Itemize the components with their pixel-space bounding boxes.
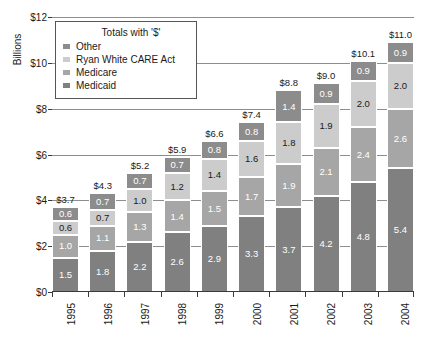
bar-segment[interactable]: 2.6 [164, 232, 191, 292]
bar-segment[interactable]: 0.6 [52, 207, 79, 221]
bar-segment[interactable]: 0.9 [387, 42, 414, 63]
bar-segment[interactable]: 1.8 [89, 251, 116, 292]
bar-segment[interactable]: 2.1 [313, 148, 340, 196]
bar-column[interactable]: 3.31.71.60.8$7.4 [238, 17, 265, 292]
y-axis-tick-label: $10 [30, 57, 47, 68]
bar-segment-value: 0.7 [96, 213, 109, 223]
bar-segment[interactable]: 1.0 [52, 235, 79, 258]
x-axis-tick [342, 292, 343, 297]
bar-stack: 2.61.41.20.7$5.9 [164, 157, 191, 292]
bar-segment[interactable]: 1.5 [52, 258, 79, 292]
x-axis-label: 1996 [89, 298, 116, 342]
bar-segment[interactable]: 3.7 [275, 207, 302, 292]
bar-segment-value: 2.0 [394, 81, 407, 91]
bar-total-label: $11.0 [389, 29, 412, 40]
bar-column[interactable]: 3.71.91.81.4$8.8 [275, 17, 302, 292]
bar-segment-value: 1.9 [282, 181, 295, 191]
bar-column[interactable]: 5.42.62.00.9$11.0 [387, 17, 414, 292]
x-axis-label: 2000 [238, 298, 265, 342]
bar-segment-value: 1.7 [245, 192, 258, 202]
bar-segment-value: 0.8 [208, 145, 221, 155]
y-axis-title: Billions [12, 15, 23, 85]
bar-column[interactable]: 4.82.42.00.9$10.1 [350, 17, 377, 292]
bar-segment-value: 5.4 [394, 225, 407, 235]
bar-column[interactable]: 4.22.11.90.9$9.0 [313, 17, 340, 292]
y-axis-tick-label: $0 [36, 287, 47, 298]
bar-segment[interactable]: 5.4 [387, 168, 414, 292]
y-axis-tick-label: $4 [36, 195, 47, 206]
bar-segment[interactable]: 1.7 [238, 177, 265, 216]
bar-segment[interactable]: 1.4 [164, 200, 191, 232]
bar-segment[interactable]: 0.7 [126, 173, 153, 189]
bar-segment[interactable]: 1.8 [275, 122, 302, 163]
y-axis-tick-label: $8 [36, 103, 47, 114]
x-axis-label: 2002 [313, 298, 340, 342]
legend-item-label: Ryan White CARE Act [76, 54, 175, 65]
bar-segment[interactable]: 0.7 [89, 193, 116, 209]
x-axis-label-text: 1999 [214, 303, 225, 325]
legend-item[interactable]: Medicaid [61, 80, 191, 91]
x-axis-labels: 1995199619971998199920002001200220032004 [52, 298, 414, 342]
bar-segment-value: 3.7 [282, 245, 295, 255]
legend-swatch-icon [63, 57, 70, 62]
bar-segment-value: 1.5 [59, 270, 72, 280]
x-axis-label: 1999 [201, 298, 228, 342]
bar-total-label: $4.3 [93, 180, 112, 191]
bar-segment[interactable]: 0.9 [313, 83, 340, 104]
legend-items: OtherRyan White CARE ActMedicareMedicaid [61, 41, 191, 91]
bar-segment[interactable]: 1.6 [238, 141, 265, 178]
bar-stack: 3.31.71.60.8$7.4 [238, 122, 265, 292]
bar-stack: 5.42.62.00.9$11.0 [387, 42, 414, 292]
bar-segment[interactable]: 2.6 [387, 109, 414, 169]
x-axis-label: 1997 [126, 298, 153, 342]
bar-stack: 1.51.00.60.6$3.7 [52, 207, 79, 292]
bar-segment[interactable]: 1.9 [313, 104, 340, 148]
bar-segment-value: 2.1 [319, 167, 332, 177]
bar-segment-value: 2.2 [133, 262, 146, 272]
bar-segment[interactable]: 3.3 [238, 216, 265, 292]
bar-segment[interactable]: 2.0 [350, 81, 377, 127]
bar-stack: 2.91.51.40.8$6.6 [201, 141, 228, 292]
bar-segment-value: 2.6 [171, 257, 184, 267]
legend-item[interactable]: Ryan White CARE Act [61, 54, 191, 65]
bar-segment[interactable]: 0.8 [201, 141, 228, 159]
x-axis-tick [124, 292, 125, 297]
bar-total-label: $8.8 [280, 77, 299, 88]
bar-segment[interactable]: 2.2 [126, 242, 153, 292]
bar-segment[interactable]: 2.4 [350, 127, 377, 182]
bar-segment[interactable]: 0.6 [52, 221, 79, 235]
bar-segment[interactable]: 2.0 [387, 63, 414, 109]
bar-segment-value: 1.1 [96, 233, 109, 243]
bar-segment-value: 1.0 [59, 241, 72, 251]
bar-segment[interactable]: 0.8 [238, 122, 265, 140]
bar-segment[interactable]: 4.8 [350, 182, 377, 292]
bar-segment[interactable]: 0.7 [164, 157, 191, 173]
bar-segment[interactable]: 0.9 [350, 61, 377, 82]
x-axis-label: 2001 [275, 298, 302, 342]
bar-segment[interactable]: 4.2 [313, 196, 340, 292]
bar-segment[interactable]: 1.4 [201, 159, 228, 191]
bar-column[interactable]: 2.91.51.40.8$6.6 [201, 17, 228, 292]
bar-segment-value: 2.0 [357, 99, 370, 109]
x-axis-tick [305, 292, 306, 297]
bar-segment[interactable]: 1.1 [89, 226, 116, 251]
bar-segment[interactable]: 1.2 [164, 173, 191, 201]
x-axis-tick [413, 292, 414, 297]
bar-segment[interactable]: 1.3 [126, 212, 153, 242]
legend-item[interactable]: Other [61, 41, 191, 52]
bar-segment[interactable]: 1.9 [275, 164, 302, 208]
x-axis-label-text: 1998 [177, 303, 188, 325]
bar-segment[interactable]: 1.0 [126, 189, 153, 212]
bar-segment[interactable]: 2.9 [201, 226, 228, 292]
x-axis-tick [161, 292, 162, 297]
bar-segment-value: 2.6 [394, 134, 407, 144]
bar-segment[interactable]: 1.5 [201, 191, 228, 225]
legend-item[interactable]: Medicare [61, 67, 191, 78]
bar-segment-value: 1.5 [208, 204, 221, 214]
bar-segment-value: 1.2 [171, 182, 184, 192]
bar-segment[interactable]: 0.7 [89, 210, 116, 226]
bar-segment[interactable]: 1.4 [275, 90, 302, 122]
x-axis-label: 1995 [52, 298, 79, 342]
bar-segment-value: 1.4 [208, 170, 221, 180]
bar-total-label: $10.1 [351, 48, 375, 59]
